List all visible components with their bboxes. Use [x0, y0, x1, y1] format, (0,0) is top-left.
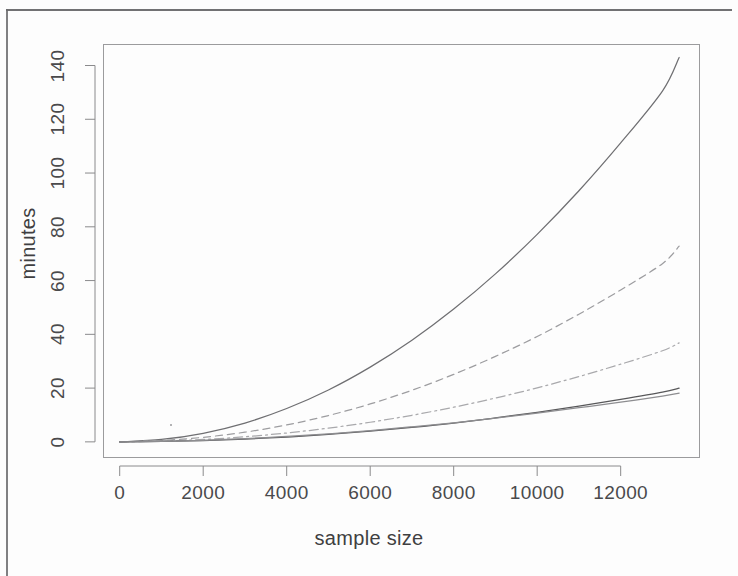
- scan-speck-artifact: [170, 424, 172, 426]
- x-tick-label: 12000: [576, 482, 666, 504]
- y-tick-label: 140: [47, 43, 69, 89]
- y-tick-label: 80: [47, 204, 69, 250]
- x-tick-label: 8000: [409, 482, 499, 504]
- x-tick-label: 0: [75, 482, 165, 504]
- y-tick-label: 0: [47, 419, 69, 465]
- y-tick-label: 40: [47, 311, 69, 357]
- x-tick-label: 2000: [158, 482, 248, 504]
- x-tick-label: 4000: [242, 482, 332, 504]
- y-tick-label: 120: [47, 96, 69, 142]
- y-tick-label: 20: [47, 365, 69, 411]
- x-tick-label: 6000: [325, 482, 415, 504]
- y-tick-label: 60: [47, 258, 69, 304]
- scanned-page: 020406080100120140 020004000600080001000…: [0, 0, 738, 576]
- y-tick-label: 100: [47, 150, 69, 196]
- chart-figure: 020406080100120140 020004000600080001000…: [0, 0, 738, 576]
- plot-frame: [103, 44, 700, 458]
- x-tick-label: 10000: [492, 482, 582, 504]
- x-axis-title: sample size: [0, 527, 738, 550]
- y-axis-title: minutes: [17, 174, 40, 314]
